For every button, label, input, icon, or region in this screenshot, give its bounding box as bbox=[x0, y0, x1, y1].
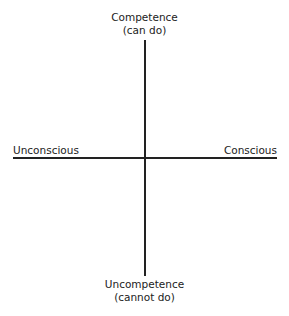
top-axis-subtitle: (can do) bbox=[0, 24, 289, 37]
top-axis-title: Competence bbox=[0, 11, 289, 24]
horizontal-axis-line bbox=[13, 157, 277, 159]
right-axis-label: Conscious bbox=[224, 144, 277, 157]
bottom-axis-title: Uncompetence bbox=[0, 278, 289, 291]
top-axis-label: Competence (can do) bbox=[0, 11, 289, 37]
left-axis-label: Unconscious bbox=[13, 144, 79, 157]
bottom-axis-label: Uncompetence (cannot do) bbox=[0, 278, 289, 304]
bottom-axis-subtitle: (cannot do) bbox=[0, 291, 289, 304]
